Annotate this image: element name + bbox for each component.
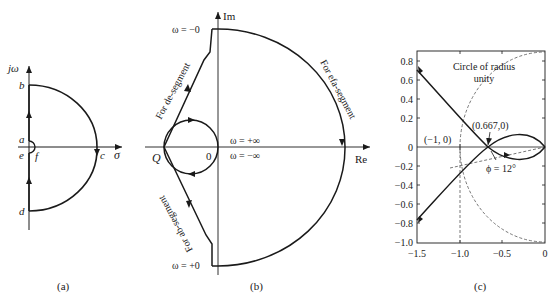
omega-plus-zero: ω = +0 (172, 260, 200, 271)
caption-b: (b) (250, 280, 263, 293)
y-tick: 0.6 (401, 75, 414, 86)
pointer-0667 (488, 132, 490, 145)
annotation-minus-one: (−1, 0) (424, 134, 451, 146)
panel-c: 0.8 0.6 0.4 0.2 0 −0.2 −0.4 −0.6 −0.8 −1… (395, 51, 548, 293)
y-tick: 0.2 (401, 113, 414, 124)
panel-a: jω b a e f c σ d (a) (6, 62, 122, 293)
sigma-label: σ (114, 148, 121, 162)
origin-label: 0 (206, 150, 212, 162)
caption-c: (c) (474, 280, 487, 293)
omega-minus-inf: ω = −∞ (230, 150, 260, 161)
x-tick: −1.0 (451, 248, 469, 259)
arrow-up-icon (26, 177, 32, 184)
arrow-icon (184, 84, 191, 92)
y-tick: −0.4 (395, 180, 413, 191)
point-d: d (19, 205, 25, 217)
x-tick: −0.5 (493, 248, 511, 259)
re-label: Re (355, 153, 367, 165)
y-tick: −0.6 (395, 199, 413, 210)
point-a: a (19, 133, 25, 145)
y-tick: 0.4 (401, 94, 414, 105)
y-tick: −0.2 (395, 161, 413, 172)
arrow-right-icon (188, 117, 195, 123)
figure-canvas: jω b a e f c σ d (a) Im Re Q 0 ω = −0 ω … (0, 0, 559, 304)
omega-minus-zero: ω = −0 (172, 24, 200, 35)
y-tick: −0.8 (395, 218, 413, 229)
y-tick: 0 (408, 142, 413, 153)
panel-b: Im Re Q 0 ω = −0 ω = +0 ω = +∞ ω = −∞ Fo… (145, 10, 370, 293)
point-e: e (19, 149, 24, 161)
x-tick: −1.5 (408, 248, 426, 259)
point-c: c (100, 149, 105, 161)
jw-label: jω (6, 62, 19, 74)
omega-plus-inf: ω = +∞ (230, 135, 260, 146)
arrow-down-icon (339, 139, 345, 146)
arrow-up-icon (26, 111, 32, 118)
x-tick: 0 (543, 248, 548, 259)
point-q: Q (152, 151, 161, 165)
im-label: Im (223, 10, 236, 22)
arrow-left-icon (188, 171, 195, 177)
point-f: f (35, 150, 40, 162)
y-tick: 0.8 (401, 56, 414, 67)
annotation-point: (0.667,0) (472, 120, 509, 132)
annotation-phi: ϕ = 12° (486, 163, 516, 174)
caption-a: (a) (57, 280, 70, 293)
point-b: b (19, 79, 25, 91)
annotation-circle-line2: unity (474, 73, 495, 84)
annotation-circle-line1: Circle of radius (453, 61, 515, 72)
contour-large-semicircle (29, 85, 97, 211)
y-tick: −1.0 (395, 237, 413, 248)
